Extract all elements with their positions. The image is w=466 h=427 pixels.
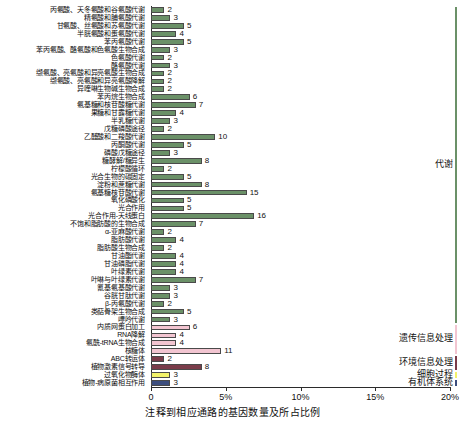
bar-value-label: 11 bbox=[221, 347, 232, 356]
bar-row: 2 bbox=[151, 229, 450, 235]
bar-row: 3 bbox=[151, 317, 450, 323]
bar-metabolism bbox=[151, 309, 184, 315]
bar-row: 3 bbox=[151, 285, 450, 291]
category-axis-labels: 丙氨酸、天冬氨酸和谷氨酸代谢精氨酸和脯氨酸代谢甘氨酸、丝氨酸和苏氨酸代谢半胱氨酸… bbox=[0, 6, 149, 387]
bar-value-label: 4 bbox=[176, 339, 183, 348]
bar-row: 10 bbox=[151, 134, 450, 140]
bar-organismal bbox=[151, 380, 170, 386]
category-label: 缬氨酸、亮氨酸和异亮氨酸降解 bbox=[50, 78, 145, 85]
bar-metabolism bbox=[151, 142, 184, 148]
bar-row: 4 bbox=[151, 237, 450, 243]
bar-row: 5 bbox=[151, 39, 450, 45]
bar-value-label: 5 bbox=[184, 21, 191, 30]
bar-metabolism bbox=[151, 301, 164, 307]
bar-row: 4 bbox=[151, 261, 450, 267]
category-label: 氨酰-tRNA生物合成 bbox=[86, 340, 145, 347]
bar-row: 7 bbox=[151, 102, 450, 108]
bar-value-label: 5 bbox=[184, 307, 191, 316]
bar-row: 3 bbox=[151, 118, 450, 124]
bar-value-label: 2 bbox=[164, 355, 171, 364]
group-bracket-genetic bbox=[455, 325, 457, 355]
bar-row: 3 bbox=[151, 372, 450, 378]
bar-metabolism bbox=[151, 285, 170, 291]
category-label: 脂肪酸生物合成 bbox=[97, 244, 145, 251]
category-label: 氧化磷酸化 bbox=[111, 197, 145, 204]
bar-metabolism bbox=[151, 253, 176, 259]
bar-row: 3 bbox=[151, 150, 450, 156]
bar-row: 5 bbox=[151, 142, 450, 148]
x-tick-label: 0 bbox=[148, 392, 153, 402]
bar-value-label: 5 bbox=[184, 140, 191, 149]
category-label: 核糖体 bbox=[125, 348, 145, 355]
bar-metabolism bbox=[151, 198, 184, 204]
category-label: β-丙氨酸代谢 bbox=[105, 300, 145, 307]
category-label: 过氧化物酶体 bbox=[104, 371, 145, 378]
bar-metabolism bbox=[151, 94, 190, 100]
category-label: 酪氨酸代谢 bbox=[111, 62, 145, 69]
x-axis-title: 注释到相应通路的基因数量及所占比例 bbox=[0, 404, 466, 419]
bar-row: 2 bbox=[151, 166, 450, 172]
group-label-environmental: 环境信息处理 bbox=[399, 357, 453, 367]
bar-value-label: 4 bbox=[176, 267, 183, 276]
bar-value-label: 2 bbox=[164, 243, 171, 252]
category-label: 苯丙氨酸代谢 bbox=[104, 38, 145, 45]
category-label: 甘油磷脂代谢 bbox=[104, 260, 145, 267]
bar-metabolism bbox=[151, 166, 164, 172]
bar-genetic bbox=[151, 333, 176, 339]
bar-row: 5 bbox=[151, 206, 450, 212]
group-label-metabolism: 代谢 bbox=[435, 159, 453, 169]
category-label: 内质网蛋白加工 bbox=[97, 324, 145, 331]
bar-metabolism bbox=[151, 229, 164, 235]
category-label: 植物激素信号转导 bbox=[91, 364, 145, 371]
category-label: 柠檬酸循环 bbox=[111, 165, 145, 172]
group-bracket-organismal bbox=[455, 380, 457, 386]
x-tick bbox=[226, 387, 227, 391]
bar-metabolism bbox=[151, 206, 184, 212]
bar-genetic bbox=[151, 340, 176, 346]
category-label: 色氨酸代谢 bbox=[111, 54, 145, 61]
bar-metabolism bbox=[151, 31, 176, 37]
group-bracket-environmental bbox=[455, 356, 457, 370]
bar-row: 3 bbox=[151, 380, 450, 386]
bar-row: 4 bbox=[151, 110, 450, 116]
bar-row: 11 bbox=[151, 348, 450, 354]
category-label: 叶绿素代谢 bbox=[111, 268, 145, 275]
category-label: 光合作用-天线蛋白 bbox=[88, 213, 145, 220]
bar-metabolism bbox=[151, 23, 184, 29]
bar-row: 7 bbox=[151, 277, 450, 283]
category-label: 乙醛酸和二羧酸代谢 bbox=[84, 133, 145, 140]
bar-row: 5 bbox=[151, 23, 450, 29]
x-tick bbox=[301, 387, 302, 391]
bar-environmental bbox=[151, 364, 202, 370]
bar-row: 2 bbox=[151, 7, 450, 13]
category-label: 植物-病原菌相互作用 bbox=[82, 379, 145, 386]
bar-metabolism bbox=[151, 79, 164, 85]
bar-metabolism bbox=[151, 102, 196, 108]
bar-value-label: 7 bbox=[196, 275, 203, 284]
bar-value-label: 7 bbox=[196, 220, 203, 229]
bar-row: 5 bbox=[151, 309, 450, 315]
bar-row: 8 bbox=[151, 182, 450, 188]
bar-value-label: 7 bbox=[196, 101, 203, 110]
bar-metabolism bbox=[151, 39, 184, 45]
category-label: 半胱氨酸和蛋氨酸代谢 bbox=[77, 30, 145, 37]
bar-row: 8 bbox=[151, 158, 450, 164]
bar-row: 5 bbox=[151, 174, 450, 180]
bar-metabolism bbox=[151, 261, 176, 267]
bar-value-label: 2 bbox=[164, 164, 171, 173]
category-label: 果糖和甘露糖代谢 bbox=[91, 110, 145, 117]
bar-value-label: 4 bbox=[176, 235, 183, 244]
bar-row: 2 bbox=[151, 71, 450, 77]
bar-metabolism bbox=[151, 55, 164, 61]
bar-environmental bbox=[151, 356, 164, 362]
bar-row: 7 bbox=[151, 221, 450, 227]
category-label: 光合生物的碳固定 bbox=[91, 173, 145, 180]
bar-value-label: 5 bbox=[184, 37, 191, 46]
bar-metabolism bbox=[151, 47, 170, 53]
category-label: 氰基氨基酸代谢 bbox=[97, 284, 145, 291]
bar-value-label: 3 bbox=[170, 148, 177, 157]
bar-metabolism bbox=[151, 86, 164, 92]
bar-value-label: 4 bbox=[176, 29, 183, 38]
bar-metabolism bbox=[151, 71, 164, 77]
bar-metabolism bbox=[151, 190, 247, 196]
